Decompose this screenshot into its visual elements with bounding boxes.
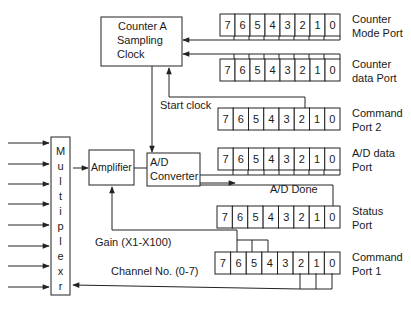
bit-label: 3 [284,64,290,76]
analog-input-arrows [8,143,49,287]
bit-label: 1 [314,153,320,165]
amplifier-label: Amplifier [91,161,132,173]
gain-label: Gain (X1-X100) [95,236,171,248]
bit-label: 1 [314,257,320,269]
bit-label: 2 [299,19,305,31]
bit-label: 7 [223,113,229,125]
bit-label: 0 [329,113,335,125]
multiplexer-letter: l [59,175,61,187]
data-acquisition-diagram: Counter A Sampling Clock Multiplexr Ampl… [0,0,411,312]
command-port-1-register: 76543210CommandPort 1 [215,251,403,277]
amplifier-block: Amplifier [89,150,134,185]
bit-label: 5 [254,19,260,31]
bit-label: 0 [329,64,335,76]
counter-mode-port-register: 76543210CounterMode Port [220,13,403,39]
bit-label: 7 [224,64,230,76]
bit-label: 3 [284,19,290,31]
bit-label: 5 [251,257,257,269]
multiplexer-letter: e [57,250,63,262]
bit-label: 2 [299,153,305,165]
counter-a-line-2: Sampling [117,34,163,46]
bit-label: 6 [238,113,244,125]
bit-label: 2 [299,211,305,223]
ad-converter-line-1: A/D [150,156,168,168]
bit-label: 6 [238,153,244,165]
multiplexer-letter: i [59,205,61,217]
status-port-label: Port [352,219,372,231]
bit-label: 5 [253,153,259,165]
command-port-2-register: 76543210CommandPort 2 [218,107,403,133]
status-port-label: Status [352,205,384,217]
bit-label: 2 [299,64,305,76]
counter-a-line-3: Clock [117,48,145,60]
bit-label: 4 [269,64,275,76]
bit-label: 3 [284,113,290,125]
counter-data-port-label: data Port [352,72,397,84]
ad-converter-block: A/D Converter [147,153,200,186]
bit-label: 6 [235,257,241,269]
bit-label: 4 [268,211,274,223]
bit-label: 4 [268,113,274,125]
ad-done-label: A/D Done [270,183,318,195]
multiplexer-letter: t [59,190,62,202]
bit-label: 4 [267,257,273,269]
bit-label: 3 [284,153,290,165]
bit-label: 7 [223,153,229,165]
bit-label: 0 [329,19,335,31]
start-clock-label: Start clock [160,99,212,111]
counter-data-port-label: Counter [352,58,391,70]
bit-label: 5 [253,113,259,125]
multiplexer-letter: r [59,280,63,292]
bit-label: 4 [269,19,275,31]
bit-label: 3 [283,211,289,223]
bit-label: 4 [268,153,274,165]
multiplexer-letter: p [57,220,63,232]
multiplexer-letter: u [57,160,63,172]
bit-label: 5 [254,64,260,76]
multiplexer-letter: x [58,265,64,277]
multiplexer-block: Multiplexr [51,137,70,295]
status-port-register: 76543210StatusPort [217,205,384,231]
bit-label: 6 [239,64,245,76]
counter-data-port-register: 76543210Counterdata Port [220,58,397,84]
bit-label: 0 [329,153,335,165]
multiplexer-letter: M [56,145,65,157]
bit-label: 7 [224,19,230,31]
ad-data-port-register: 76543210A/D dataPort [218,147,396,173]
multiplexer-letter: l [59,235,61,247]
bit-label: 2 [299,113,305,125]
channel-arrow [73,285,300,289]
command-port-1-label: Port 1 [352,265,381,277]
bit-label: 5 [252,211,258,223]
bit-label: 1 [314,19,320,31]
counter-mode-port-label: Mode Port [352,27,403,39]
bit-label: 2 [298,257,304,269]
ad-data-port-label: Port [352,161,372,173]
command-port-2-label: Command [352,107,403,119]
bit-label: 1 [314,211,320,223]
bit-label: 6 [237,211,243,223]
ad-data-port-label: A/D data [352,147,396,159]
counter-a-sampling-clock-block: Counter A Sampling Clock [101,17,182,66]
bit-label: 7 [222,211,228,223]
counter-mode-port-label: Counter [352,13,391,25]
bit-label: 1 [314,113,320,125]
bit-label: 6 [239,19,245,31]
ad-converter-line-2: Converter [150,170,199,182]
channel-label: Channel No. (0-7) [111,265,198,277]
bit-label: 1 [314,64,320,76]
bit-label: 0 [329,257,335,269]
bit-label: 3 [282,257,288,269]
command-port-2-label: Port 2 [352,121,381,133]
command-port-1-label: Command [352,251,403,263]
bit-label: 0 [329,211,335,223]
counter-a-line-1: Counter A [118,20,168,32]
bit-label: 7 [220,257,226,269]
